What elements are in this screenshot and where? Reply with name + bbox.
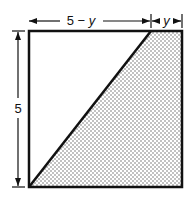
square-diagram: 5 − y y 5 — [0, 0, 189, 198]
side-dimension: 5 — [12, 31, 25, 187]
shaded-triangle — [29, 31, 182, 187]
label-y: y — [162, 13, 171, 28]
top-dimension-right: y — [152, 13, 181, 28]
label-5-minus-y: 5 − y — [67, 13, 97, 28]
label-5: 5 — [14, 101, 21, 116]
top-dimension-left: 5 − y — [29, 13, 150, 28]
